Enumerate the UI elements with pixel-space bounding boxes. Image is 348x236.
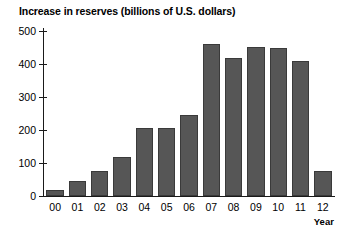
x-axis-tick-label: 11	[289, 201, 311, 213]
chart-title: Increase in reserves (billions of U.S. d…	[19, 5, 235, 17]
x-axis-tick-label: 03	[111, 201, 133, 213]
bar	[46, 190, 63, 196]
y-axis-tick-label: 300	[0, 92, 36, 102]
bar	[270, 48, 287, 196]
y-axis-tick-label: 200	[0, 125, 36, 135]
x-axis-tick-label: 01	[66, 201, 88, 213]
y-axis-tick-label: 500	[0, 26, 36, 36]
x-axis-tick-label: 04	[133, 201, 155, 213]
bar	[203, 44, 220, 196]
bar	[225, 58, 242, 196]
bar	[247, 47, 264, 196]
x-axis-tick-label: 00	[44, 201, 66, 213]
bar	[113, 157, 130, 196]
x-axis-tick-label: 12	[312, 201, 334, 213]
x-axis-tick-label: 09	[245, 201, 267, 213]
y-axis-tick	[39, 196, 47, 197]
bar	[158, 128, 175, 196]
x-axis-tick-label: 08	[222, 201, 244, 213]
x-axis-tick-label: 10	[267, 201, 289, 213]
y-axis-tick-label: 400	[0, 59, 36, 69]
x-axis-tick-label: 07	[200, 201, 222, 213]
bar	[314, 171, 331, 196]
x-axis-line	[43, 196, 335, 197]
y-axis-tick-label: 100	[0, 158, 36, 168]
bar	[69, 181, 86, 197]
bar	[136, 128, 153, 196]
bar	[180, 115, 197, 196]
x-axis-title: Year	[310, 216, 338, 227]
plot-area	[44, 31, 334, 196]
bar	[91, 171, 108, 196]
x-axis-tick-label: 02	[89, 201, 111, 213]
y-axis-tick-label: 0	[0, 191, 36, 201]
x-axis-tick-label: 06	[178, 201, 200, 213]
bar	[292, 61, 309, 196]
bar-chart-figure: Increase in reserves (billions of U.S. d…	[0, 0, 348, 236]
x-axis-tick-label: 05	[156, 201, 178, 213]
